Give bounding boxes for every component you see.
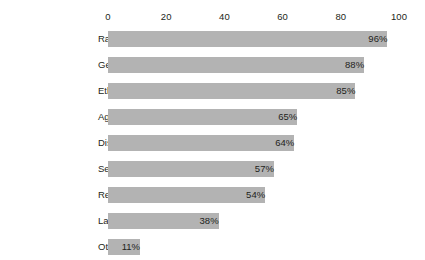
bar-value-label: 85%: [108, 83, 359, 99]
x-tick-60: 60: [277, 10, 288, 24]
bar-track: 38%: [108, 213, 399, 229]
bar-value-label: 57%: [108, 161, 278, 177]
bar-value-label: 54%: [108, 187, 269, 203]
x-tick-40: 40: [219, 10, 230, 24]
x-axis: 0 20 40 60 80 100: [108, 10, 399, 24]
bar-value-label: 96%: [108, 31, 391, 47]
bar-row: Gender88%: [0, 57, 425, 73]
bar-rows: Race96%Gender88%Ethnicity85%Age65%Disabi…: [0, 31, 425, 260]
bar-row: Other11%: [0, 239, 425, 255]
bar-value-label: 11%: [108, 239, 144, 255]
bar-row: Race96%: [0, 31, 425, 47]
bar-track: 85%: [108, 83, 399, 99]
bar-track: 65%: [108, 109, 399, 125]
bar-value-label: 65%: [108, 109, 301, 125]
bar-track: 96%: [108, 31, 399, 47]
bar-track: 64%: [108, 135, 399, 151]
bar-track: 88%: [108, 57, 399, 73]
bar-track: 57%: [108, 161, 399, 177]
x-tick-20: 20: [161, 10, 172, 24]
bar-row: Sexual Orientation57%: [0, 161, 425, 177]
bar-row: Religion54%: [0, 187, 425, 203]
x-tick-0: 0: [105, 10, 110, 24]
bar-track: 54%: [108, 187, 399, 203]
x-tick-100: 100: [391, 10, 407, 24]
bar-row: Language38%: [0, 213, 425, 229]
x-tick-80: 80: [335, 10, 346, 24]
bar-row: Ethnicity85%: [0, 83, 425, 99]
bar-row: Age65%: [0, 109, 425, 125]
bar-track: 11%: [108, 239, 399, 255]
bar-chart: 0 20 40 60 80 100 Race96%Gender88%Ethnic…: [0, 0, 425, 260]
bar-row: Disability64%: [0, 135, 425, 151]
bar-value-label: 64%: [108, 135, 298, 151]
bar-value-label: 38%: [108, 213, 223, 229]
bar-value-label: 88%: [108, 57, 368, 73]
